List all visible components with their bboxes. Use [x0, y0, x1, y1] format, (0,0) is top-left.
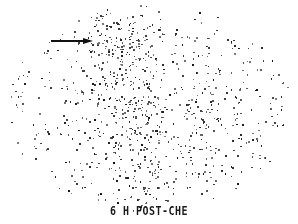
- arrow-right-icon: [51, 38, 93, 44]
- scan-caption: 6 H POST-CHE: [0, 204, 298, 217]
- scintigraphy-image: [0, 0, 298, 224]
